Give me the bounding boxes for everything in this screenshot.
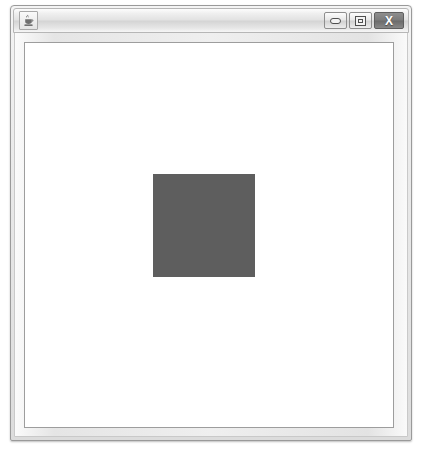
filled-square-shape bbox=[153, 174, 255, 277]
close-button[interactable]: X bbox=[374, 12, 404, 29]
title-bar[interactable]: X bbox=[13, 8, 409, 33]
minimize-button[interactable] bbox=[324, 12, 347, 29]
maximize-icon-inner bbox=[358, 19, 363, 23]
java-coffee-cup-icon[interactable] bbox=[19, 11, 38, 30]
minimize-icon bbox=[330, 18, 341, 24]
window-controls: X bbox=[324, 12, 404, 29]
drawing-canvas[interactable] bbox=[24, 42, 394, 428]
application-window[interactable]: X bbox=[10, 5, 412, 441]
maximize-icon bbox=[355, 16, 366, 26]
close-icon: X bbox=[385, 15, 393, 27]
maximize-button[interactable] bbox=[349, 12, 372, 29]
